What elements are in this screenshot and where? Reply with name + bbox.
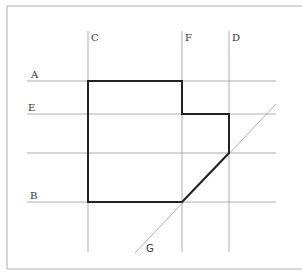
label-f: F — [185, 32, 192, 43]
label-e: E — [28, 102, 35, 113]
diagram-canvas: C F D A E B G — [0, 0, 302, 276]
label-d: D — [232, 32, 240, 43]
label-g: G — [146, 243, 154, 254]
label-c: C — [91, 32, 99, 43]
label-a: A — [30, 69, 39, 80]
label-b: B — [30, 190, 37, 201]
shape-outline — [88, 81, 229, 202]
frame-border — [7, 6, 302, 269]
